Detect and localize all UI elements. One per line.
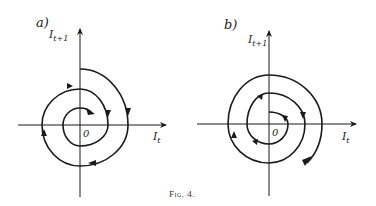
x-axis-label-a: It xyxy=(152,130,161,145)
y-axis-label-a: It+1 xyxy=(48,28,68,43)
origin-label-b: 0 xyxy=(272,127,279,138)
y-axis-label-b: It+1 xyxy=(247,33,267,48)
origin-label-a: 0 xyxy=(83,128,90,139)
figure-canvas: a) It+1 It 0 b) It+1 It 0 Fig. 4. xyxy=(0,0,376,206)
spiral-a xyxy=(42,69,128,166)
panel-a: a) It+1 It 0 xyxy=(18,15,166,197)
arrow-icon xyxy=(302,156,312,166)
panel-label-b: b) xyxy=(224,17,237,32)
arrow-icon xyxy=(86,108,95,115)
arrow-icon xyxy=(125,108,131,116)
figure-caption: Fig. 4. xyxy=(169,189,195,199)
arrow-icon xyxy=(231,131,237,138)
panel-b: b) It+1 It 0 xyxy=(197,17,356,196)
x-axis-label-b: It xyxy=(341,130,350,145)
spiral-b xyxy=(228,75,322,163)
panel-label-a: a) xyxy=(36,15,49,30)
arrow-icon xyxy=(67,83,73,89)
